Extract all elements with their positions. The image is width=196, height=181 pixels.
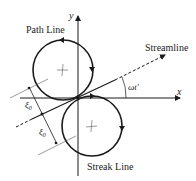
streamline-dashed-left [16,119,32,127]
x-axis-label: x [176,86,182,97]
angle-arc [122,77,126,98]
path-line-arrow-right-icon [89,67,95,72]
offset-line-lower [38,136,76,155]
streamline-label: Streamline [145,42,189,53]
path-line-center-cross-icon [57,64,68,76]
path-line-label: Path Line [26,24,65,35]
streak-line-label: Streak Line [87,161,134,172]
streak-line-center-cross-icon [86,120,97,132]
xi-upper-label: ξ0 [25,100,32,111]
path-line-arrow-top-icon [59,37,64,43]
xi-lower-label: ξ0 [39,127,46,138]
path-streak-streamline-diagram: x y Path Line Streak Line Streamline ωt′… [0,0,196,181]
y-axis-label: y [68,10,74,21]
streak-line-circle [62,96,122,156]
streamline-solid [32,80,115,119]
streamline-dashed-right [115,55,165,80]
angle-label: ωt′ [128,82,140,92]
origin-point [76,96,79,99]
streak-line-arrow-right-icon [119,126,125,131]
